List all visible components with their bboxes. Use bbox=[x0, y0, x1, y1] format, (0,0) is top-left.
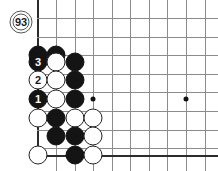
grid-line-horizontal-5 bbox=[37, 111, 218, 112]
stone-white-9[interactable] bbox=[47, 90, 66, 109]
stone-black-12[interactable] bbox=[47, 109, 66, 128]
stone-white-14[interactable] bbox=[84, 109, 103, 128]
grid-line-vertical-6 bbox=[149, 0, 150, 171]
stone-black-19[interactable] bbox=[66, 146, 85, 165]
grid-line-horizontal-0 bbox=[37, 18, 218, 19]
grid-line-horizontal-7 bbox=[37, 148, 218, 149]
go-board[interactable]: 321 93 bbox=[0, 0, 218, 171]
stone-white-18[interactable] bbox=[29, 146, 48, 165]
stone-black-7[interactable] bbox=[66, 71, 85, 90]
grid-line-vertical-7 bbox=[167, 0, 168, 171]
hoshi-left-icon bbox=[91, 97, 96, 102]
stone-white-20[interactable] bbox=[84, 146, 103, 165]
grid-line-horizontal-1 bbox=[37, 37, 218, 38]
move-number-marker: 93 bbox=[10, 11, 33, 34]
stone-label-1: 1 bbox=[29, 90, 48, 109]
stone-white-11[interactable] bbox=[29, 109, 48, 128]
stone-white-13[interactable] bbox=[66, 109, 85, 128]
grid-line-vertical-5 bbox=[130, 0, 131, 171]
grid-line-vertical-9 bbox=[205, 0, 206, 171]
stone-black-10[interactable] bbox=[66, 90, 85, 109]
stone-white-6[interactable] bbox=[47, 71, 66, 90]
grid-line-horizontal-4 bbox=[37, 92, 218, 93]
hoshi-right-icon bbox=[184, 97, 189, 102]
stone-white-17[interactable] bbox=[84, 127, 103, 146]
stone-white-3[interactable] bbox=[47, 53, 66, 72]
stone-label-2: 2 bbox=[29, 71, 48, 90]
move-number-label: 93 bbox=[11, 12, 32, 33]
stone-black-15[interactable] bbox=[47, 127, 66, 146]
stone-black-16[interactable] bbox=[66, 127, 85, 146]
stone-black-4[interactable] bbox=[66, 53, 85, 72]
board-bottom-edge bbox=[37, 155, 218, 157]
grid-line-vertical-8 bbox=[186, 0, 187, 171]
stone-label-3: 3 bbox=[29, 53, 48, 72]
grid-line-vertical-4 bbox=[112, 0, 113, 171]
